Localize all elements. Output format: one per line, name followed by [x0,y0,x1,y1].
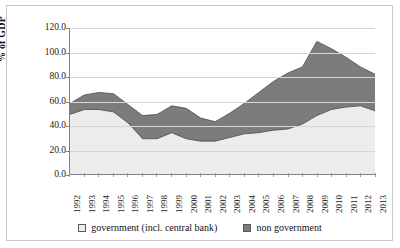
x-axis-tick [360,173,361,177]
y-axis-title: % of GDP [0,16,7,62]
plot-area [69,28,375,175]
y-axis-tick [66,28,70,29]
x-axis-tick [244,173,245,177]
x-axis-tick [288,173,289,177]
x-axis-tick-label: 2009 [321,195,330,213]
gridline [70,151,375,152]
gridline [70,102,375,103]
x-axis-tick [302,173,303,177]
x-axis-labels: 1992199319941995199619971998199920002001… [69,177,375,217]
x-axis-tick [229,173,230,177]
x-axis-tick-label: 2008 [306,195,315,213]
x-axis-tick-label: 2003 [233,195,242,213]
y-axis-tick [66,77,70,78]
chart-figure: 0.020.040.060.080.0100.0120.0 % of GDP 1… [0,0,400,248]
x-axis-tick-label: 1995 [117,195,126,213]
x-axis-tick-label: 2001 [204,195,213,213]
x-axis-tick [215,173,216,177]
x-axis-tick-label: 1993 [88,195,97,213]
x-axis-tick [98,173,99,177]
y-axis-tick-label: 120.0 [45,23,66,33]
y-axis-tick [66,151,70,152]
chart-legend: government (incl. central bank) non gove… [0,222,400,233]
x-axis-tick [113,173,114,177]
y-axis-tick [66,53,70,54]
area-government [70,106,375,174]
legend-label-non-government: non government [256,222,321,233]
y-axis-tick-label: 60.0 [49,97,66,107]
legend-swatch-government-icon [78,224,86,232]
legend-label-government: government (incl. central bank) [91,222,217,233]
x-axis-tick [156,173,157,177]
x-axis-tick-label: 2004 [248,195,257,213]
y-axis-tick-label: 40.0 [49,121,66,131]
x-axis-tick [127,173,128,177]
x-axis-tick-label: 1998 [160,195,169,213]
y-axis-tick-label: 20.0 [49,146,66,156]
x-axis-tick [142,173,143,177]
x-axis-tick-label: 1992 [73,195,82,213]
x-axis-tick-label: 2005 [262,195,271,213]
y-axis-tick-label: 80.0 [49,72,66,82]
x-axis-tick-label: 2011 [350,195,359,213]
y-axis-tick [66,126,70,127]
x-axis-tick [273,173,274,177]
x-axis-tick-label: 2006 [277,195,286,213]
x-axis-tick-label: 2010 [335,195,344,213]
x-axis-tick-label: 1999 [175,195,184,213]
x-axis-tick [375,173,376,177]
y-axis-labels: 0.020.040.060.080.0100.0120.0 [8,0,66,248]
x-axis-tick-label: 2002 [219,195,228,213]
gridline [70,77,375,78]
legend-swatch-non-government-icon [243,224,251,232]
x-axis-tick [84,173,85,177]
x-axis-tick [69,173,70,177]
x-axis-tick [346,173,347,177]
gridline [70,126,375,127]
y-axis-tick-label: 100.0 [45,48,66,58]
y-axis-tick [66,102,70,103]
x-axis-tick [200,173,201,177]
x-axis-tick-label: 2013 [379,195,388,213]
y-axis-tick-label: 0.0 [54,170,66,180]
x-axis-tick-label: 1994 [102,195,111,213]
x-axis-tick-label: 2007 [292,195,301,213]
x-axis-tick [317,173,318,177]
x-axis-tick [331,173,332,177]
gridline [70,28,375,29]
x-axis-tick [258,173,259,177]
legend-item-government: government (incl. central bank) [78,222,217,233]
x-axis-tick-label: 2012 [364,195,373,213]
legend-item-non-government: non government [243,222,321,233]
x-axis-tick-label: 1997 [146,195,155,213]
gridline [70,53,375,54]
x-axis-tick [186,173,187,177]
x-axis-tick-label: 2000 [190,195,199,213]
x-axis-tick [171,173,172,177]
x-axis-tick-label: 1996 [131,195,140,213]
